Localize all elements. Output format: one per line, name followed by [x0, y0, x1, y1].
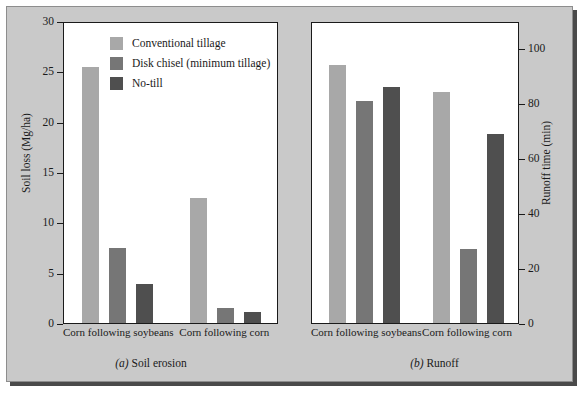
category-label: Corn following corn [415, 327, 519, 338]
bar [383, 87, 400, 323]
panel-caption-b: (b) Runoff [295, 357, 574, 369]
category-label: Corn following soybeans [311, 327, 415, 338]
plot-area-b [311, 22, 519, 324]
axis-tick [519, 104, 525, 105]
axis-tick [57, 22, 63, 23]
axis-tick [519, 269, 525, 270]
bar [136, 284, 153, 323]
axis-tick-label: 10 [43, 217, 55, 229]
axis-tick-label: 0 [48, 318, 54, 330]
axis-tick [57, 72, 63, 73]
figure-container: Conventional tillageDisk chisel (minimum… [6, 6, 573, 382]
axis-tick [519, 159, 525, 160]
legend-swatch [110, 57, 123, 70]
axis-tick-label: 25 [43, 66, 55, 78]
panel-caption-index-a: (a) [115, 357, 128, 369]
legend-swatch [110, 77, 123, 90]
axis-tick-label: 80 [528, 98, 540, 110]
panel-runoff: 020406080100 Runoff time (min) Corn foll… [295, 7, 574, 381]
y-axis-title-b: Runoff time (min) [540, 108, 552, 218]
axis-tick-label: 20 [528, 263, 540, 275]
panel-caption-a: (a) Soil erosion [7, 357, 295, 369]
bar [217, 308, 234, 323]
category-labels-a: Corn following soybeansCorn following co… [63, 327, 278, 341]
bar [244, 312, 261, 323]
category-label: Corn following corn [171, 327, 279, 338]
axis-tick [57, 274, 63, 275]
axis-tick-label: 0 [528, 318, 534, 330]
bar [82, 67, 99, 323]
panel-soil-erosion: Conventional tillageDisk chisel (minimum… [7, 7, 295, 381]
legend: Conventional tillageDisk chisel (minimum… [110, 37, 270, 97]
axis-tick [57, 173, 63, 174]
legend-item-label: No-till [132, 78, 163, 90]
panel-caption-text-b: Runoff [426, 357, 458, 369]
legend-item: Conventional tillage [110, 37, 270, 50]
legend-item: No-till [110, 77, 270, 90]
bar [487, 134, 504, 323]
axis-tick [519, 214, 525, 215]
plot-area-a: Conventional tillageDisk chisel (minimum… [63, 22, 278, 324]
axis-tick [57, 123, 63, 124]
axis-tick-label: 100 [528, 43, 545, 55]
axis-tick [519, 49, 525, 50]
axis-tick [57, 223, 63, 224]
bar [433, 92, 450, 323]
panel-caption-index-b: (b) [410, 357, 423, 369]
axis-tick-label: 5 [48, 268, 54, 280]
bar-group-container-b [312, 23, 518, 323]
axis-tick-label: 15 [43, 167, 55, 179]
axis-tick-label: 40 [528, 208, 540, 220]
category-label: Corn following soybeans [63, 327, 171, 338]
legend-swatch [110, 37, 123, 50]
axis-tick [519, 324, 525, 325]
y-axis-title-a: Soil loss (Mg/ha) [20, 98, 32, 208]
axis-tick [57, 324, 63, 325]
panel-caption-text-a: Soil erosion [132, 357, 187, 369]
axis-tick-label: 60 [528, 153, 540, 165]
axis-tick-label: 30 [43, 16, 55, 28]
legend-item: Disk chisel (minimum tillage) [110, 57, 270, 70]
legend-item-label: Conventional tillage [132, 38, 226, 50]
bar [109, 248, 126, 324]
category-labels-b: Corn following soybeansCorn following co… [311, 327, 519, 341]
legend-item-label: Disk chisel (minimum tillage) [132, 58, 270, 70]
bar [356, 101, 373, 323]
axis-tick-label: 20 [43, 117, 55, 129]
bar [329, 65, 346, 323]
bar [460, 249, 477, 323]
bar [190, 198, 207, 323]
